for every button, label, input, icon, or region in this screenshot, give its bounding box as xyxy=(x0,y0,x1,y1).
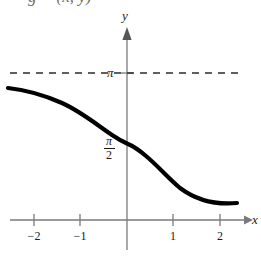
pi-over-two-label: π 2 xyxy=(101,135,117,161)
arccot-graph-figure: g = (x, y) y x π π 2 −2 −1 1 2 xyxy=(0,0,261,258)
pi-over-two-denominator: 2 xyxy=(101,149,117,161)
x-tick-label-pos2: 2 xyxy=(212,230,228,242)
y-axis-label: y xyxy=(122,9,128,22)
plot-canvas xyxy=(0,0,261,258)
x-tick-label-neg1: −1 xyxy=(70,230,90,242)
x-axis-label: x xyxy=(252,213,258,226)
y-axis-arrowhead xyxy=(122,27,131,40)
pi-asymptote-label: π xyxy=(107,66,114,79)
x-tick-label-neg2: −2 xyxy=(24,230,44,242)
pi-over-two-numerator: π xyxy=(101,135,117,147)
x-tick-label-pos1: 1 xyxy=(165,230,181,242)
arccot-curve xyxy=(8,88,237,203)
